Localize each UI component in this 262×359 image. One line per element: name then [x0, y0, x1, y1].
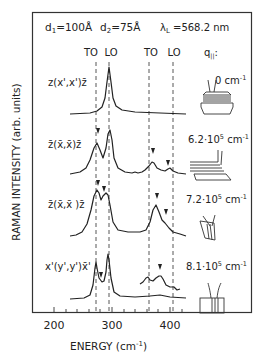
spectrum-1 — [70, 67, 186, 114]
marker-s3-4 — [164, 209, 168, 215]
marker-s3-1 — [96, 180, 100, 186]
x-axis-ticks — [54, 307, 182, 312]
marker-s2-3 — [166, 160, 170, 166]
geometry-sketch-3 — [200, 215, 215, 240]
x-tick-400: 400 — [160, 319, 181, 332]
x-axis-label: ENERGY (cm-1) — [70, 340, 147, 352]
d1-label: d1=100Å — [45, 21, 93, 35]
q-value-2: 6.2·105 cm-1 — [188, 133, 249, 145]
q-value-4: 8.1·105 cm-1 — [186, 260, 247, 272]
raman-spectra-figure: d1=100Å d2=75Å λL =568.2 nm TO LO TO LO … — [0, 0, 262, 359]
spectrum-4-magnified-inset — [140, 276, 180, 290]
y-axis-label: RAMAN INTENSITY (arb. units) — [10, 83, 22, 240]
spectrum-1-label: z(x',x')z̄ — [48, 77, 87, 88]
d2-label: d2=75Å — [100, 21, 141, 35]
to2-label: TO — [143, 47, 158, 58]
marker-s3-3 — [155, 193, 159, 199]
x-tick-200: 200 — [44, 319, 65, 332]
marker-s3-2 — [102, 186, 106, 192]
marker-s2-1 — [96, 128, 100, 134]
reference-lines — [96, 62, 173, 312]
geometry-sketch-2 — [190, 150, 231, 180]
laser-wavelength-label: λL =568.2 nm — [160, 22, 229, 35]
marker-s4-2 — [158, 264, 162, 270]
marker-s2-2 — [151, 148, 155, 154]
spectrum-2 — [70, 130, 186, 174]
peak-markers — [96, 128, 170, 278]
q-value-1: 0 cm-1 — [215, 74, 246, 86]
q-parallel-label: q||: — [204, 47, 218, 60]
lo1-label: LO — [104, 47, 117, 58]
spectrum-4-label: x'(y',y')x̄' — [45, 261, 91, 272]
q-value-3: 7.2·105 cm-1 — [186, 193, 247, 205]
marker-s4-1 — [99, 272, 103, 278]
lo2-label: LO — [167, 47, 180, 58]
geometry-sketch-4 — [200, 283, 224, 313]
spectrum-3-label: z̄(x̄,x̄ )z̄ — [48, 199, 85, 210]
spectrum-2-label: z̄(x̄,x̄)z̄ — [48, 139, 81, 150]
x-tick-300: 300 — [102, 319, 123, 332]
spectrum-3 — [70, 190, 186, 236]
to1-label: TO — [83, 47, 98, 58]
